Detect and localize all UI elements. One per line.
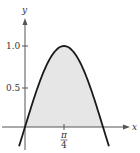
chart: y x 1.0 0.5 π 4 <box>0 0 140 153</box>
shaded-area <box>25 46 103 127</box>
y-tick-label-05: 0.5 <box>6 83 21 93</box>
x-tick-label-num: π <box>60 130 68 140</box>
y-axis-arrow-icon <box>23 18 28 25</box>
x-axis-label: x <box>132 122 137 132</box>
y-axis-label: y <box>21 5 28 15</box>
x-axis-arrow-icon <box>123 125 130 130</box>
x-tick-label-den: 4 <box>61 140 67 150</box>
y-tick-label-1: 1.0 <box>6 41 21 51</box>
